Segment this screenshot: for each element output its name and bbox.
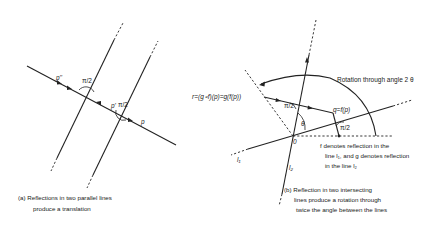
- origin-label: 0: [293, 138, 297, 145]
- note-line3: in the line l₂: [325, 162, 358, 169]
- arrow-icon: [259, 82, 265, 87]
- note-line1: f denotes reflection in the: [320, 142, 390, 149]
- label-right-angle-1: π/2: [82, 77, 92, 84]
- caption-a-line2: produce a translation: [33, 205, 91, 212]
- theta-label: θ: [301, 120, 305, 127]
- reflection-diagram: p'' p' p π/2 π/2 (a) Reflections in two …: [0, 0, 446, 231]
- panel-b: Rotation through angle 2 θ r=(g∘f)(p)=g(…: [192, 20, 414, 213]
- right-angle-mark: [79, 87, 94, 92]
- label-right-angle-2: π/2: [118, 101, 128, 108]
- arrow-icon: [308, 106, 314, 110]
- label-p: p: [140, 118, 145, 126]
- caption-b-line2: lines produce a rotation through: [294, 196, 382, 203]
- label-right-angle-b2: π/2: [340, 124, 350, 131]
- caption-b-line1: (b) Reflection in two intersecting: [284, 186, 373, 193]
- q-label: q=f(p): [333, 106, 350, 114]
- r-label: r=(g∘f)(p)=g(f(p)): [192, 93, 241, 101]
- note-line2: line l₁, and g denotes reflection: [325, 152, 410, 159]
- parallel-line-2: [93, 57, 150, 175]
- point-p: [338, 135, 341, 138]
- transversal-line: [27, 66, 176, 145]
- rotation-arc: [261, 75, 376, 136]
- segment-q-p: [333, 113, 339, 136]
- parallel-line-1: [57, 40, 114, 158]
- line-l2-label: l₂: [289, 164, 293, 171]
- rotation-label: Rotation through angle 2 θ: [337, 76, 414, 84]
- label-right-angle-b1: π/2: [284, 102, 294, 109]
- caption-b-line3: twice the angle between the lines: [296, 206, 387, 213]
- panel-a: p'' p' p π/2 π/2 (a) Reflections in two …: [18, 23, 176, 212]
- label-p-double-prime: p'': [55, 74, 63, 82]
- line-l1-label: l₁: [237, 156, 241, 163]
- arrow-icon: [276, 98, 282, 102]
- caption-a-line1: (a) Reflections in two parallel lines: [18, 194, 112, 201]
- figure-canvas: p'' p' p π/2 π/2 (a) Reflections in two …: [0, 0, 446, 231]
- label-p-prime: p': [110, 102, 117, 110]
